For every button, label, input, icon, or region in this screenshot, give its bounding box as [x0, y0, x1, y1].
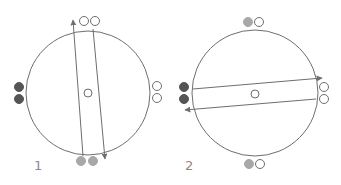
arrow-up-icon: [73, 20, 83, 156]
center-marker: [84, 89, 92, 97]
right-open-ball: [320, 83, 329, 92]
bottom-gray-ball: [77, 157, 86, 166]
left-dark-ball: [180, 95, 189, 104]
left-dark-ball: [15, 83, 24, 92]
right-open-ball: [320, 95, 329, 104]
diagram-1: [15, 17, 162, 166]
bottom-open-ball: [256, 160, 265, 169]
diagram-1-label: 1: [34, 158, 42, 173]
right-open-ball: [153, 94, 162, 103]
center-marker: [251, 90, 259, 98]
top-gray-ball: [244, 18, 253, 27]
left-dark-ball: [180, 83, 189, 92]
bottom-gray-ball: [89, 157, 98, 166]
arrow-down-icon: [93, 29, 105, 159]
top-open-ball: [80, 17, 89, 26]
top-open-ball: [91, 17, 100, 26]
right-open-ball: [153, 82, 162, 91]
diagram-2-label: 2: [185, 158, 193, 173]
bottom-gray-ball: [245, 160, 254, 169]
top-open-ball: [255, 18, 264, 27]
diagram-2: [180, 18, 329, 169]
left-dark-ball: [15, 95, 24, 104]
diagram-canvas: [0, 0, 341, 185]
arrow-left-icon: [185, 99, 316, 110]
arrow-right-icon: [193, 78, 322, 89]
